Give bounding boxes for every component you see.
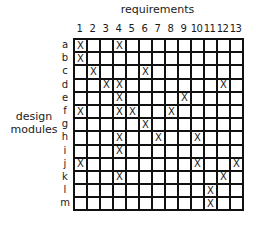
matrix-cell — [139, 171, 152, 184]
row-label: m — [58, 196, 72, 209]
matrix-cell: X — [113, 171, 126, 184]
matrix-cell — [191, 171, 204, 184]
matrix-cell — [204, 65, 217, 78]
matrix-cell — [217, 52, 230, 65]
matrix-row: XX — [74, 92, 243, 105]
matrix-cell — [152, 65, 165, 78]
matrix-cell — [139, 39, 152, 52]
matrix-row: XXX — [74, 131, 243, 144]
matrix-cell — [217, 158, 230, 171]
matrix-row: X — [74, 145, 243, 158]
matrix-cell — [74, 118, 87, 131]
matrix-row: XXXX — [74, 105, 243, 118]
matrix-cell — [113, 184, 126, 197]
matrix-cell — [126, 39, 139, 52]
matrix-cell — [126, 145, 139, 158]
matrix-cell — [100, 52, 113, 65]
matrix-cell — [204, 52, 217, 65]
matrix-cell — [165, 197, 178, 210]
matrix-cell — [152, 79, 165, 92]
matrix-cell — [217, 65, 230, 78]
matrix-cell — [204, 79, 217, 92]
matrix-cell: X — [217, 171, 230, 184]
column-labels: 12345678910111213 — [73, 22, 242, 36]
matrix-cell — [204, 145, 217, 158]
matrix-cell — [217, 118, 230, 131]
matrix-cell — [191, 118, 204, 131]
matrix-cell — [74, 92, 87, 105]
column-label: 1 — [73, 22, 86, 36]
matrix-cell — [191, 52, 204, 65]
matrix-cell — [87, 197, 100, 210]
matrix-cell — [191, 39, 204, 52]
matrix-cell — [204, 131, 217, 144]
matrix-cell — [113, 65, 126, 78]
matrix-cell — [139, 52, 152, 65]
matrix-cell — [152, 184, 165, 197]
matrix-cell — [113, 158, 126, 171]
matrix-cell — [139, 184, 152, 197]
matrix-row: XXX — [74, 79, 243, 92]
row-label: k — [58, 170, 72, 183]
matrix-cell — [217, 184, 230, 197]
matrix-cell — [87, 118, 100, 131]
matrix-cell: X — [126, 105, 139, 118]
matrix-cell — [204, 118, 217, 131]
column-label: 5 — [125, 22, 138, 36]
matrix-cell — [152, 118, 165, 131]
matrix-cell — [152, 171, 165, 184]
matrix-cell — [165, 39, 178, 52]
matrix-cell — [230, 92, 243, 105]
matrix-cell — [165, 65, 178, 78]
column-label: 13 — [229, 22, 242, 36]
matrix-cell — [230, 65, 243, 78]
matrix-cell: X — [178, 92, 191, 105]
row-label: g — [58, 117, 72, 130]
matrix-row: XX — [74, 39, 243, 52]
matrix-cell: X — [74, 158, 87, 171]
matrix-cell: X — [139, 118, 152, 131]
matrix-cell — [230, 105, 243, 118]
matrix-cell — [87, 171, 100, 184]
matrix-cell: X — [204, 184, 217, 197]
matrix-cell — [230, 39, 243, 52]
matrix-cell — [165, 79, 178, 92]
matrix-cell — [126, 131, 139, 144]
matrix-cell — [217, 145, 230, 158]
matrix-cell: X — [113, 92, 126, 105]
matrix-cell — [178, 197, 191, 210]
matrix-cell — [204, 105, 217, 118]
matrix-cell — [178, 39, 191, 52]
row-label: b — [58, 51, 72, 64]
matrix-cell — [126, 92, 139, 105]
matrix-cell — [165, 131, 178, 144]
matrix-cell — [126, 65, 139, 78]
matrix-cell — [100, 184, 113, 197]
matrix-cell — [74, 131, 87, 144]
row-label: a — [58, 38, 72, 51]
matrix-cell — [152, 105, 165, 118]
matrix-cell — [87, 52, 100, 65]
matrix-cell — [178, 79, 191, 92]
matrix-cell — [152, 39, 165, 52]
matrix-cell — [100, 118, 113, 131]
matrix-cell — [178, 171, 191, 184]
matrix-cell — [165, 171, 178, 184]
matrix-cell — [152, 92, 165, 105]
matrix-cell — [178, 131, 191, 144]
matrix-cell — [113, 118, 126, 131]
matrix-cell: X — [217, 79, 230, 92]
axis-label-line-2: modules — [6, 123, 62, 136]
matrix-cell — [178, 118, 191, 131]
matrix-cell — [152, 158, 165, 171]
matrix-cell — [126, 52, 139, 65]
matrix-cell — [100, 131, 113, 144]
matrix-cell: X — [204, 197, 217, 210]
matrix-cell: X — [113, 79, 126, 92]
matrix-cell: X — [74, 105, 87, 118]
matrix-cell — [165, 118, 178, 131]
matrix-cell — [191, 184, 204, 197]
matrix-cell — [217, 197, 230, 210]
matrix-cell — [204, 92, 217, 105]
row-label: h — [58, 130, 72, 143]
